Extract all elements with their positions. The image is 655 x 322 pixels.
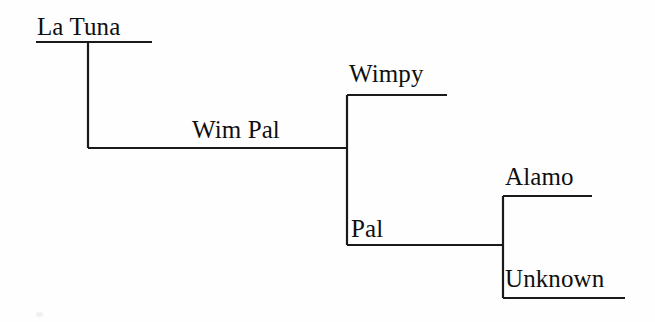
scan-artifact: [36, 312, 43, 317]
node-label-la-tuna: La Tuna: [37, 14, 120, 39]
node-label-wim-pal: Wim Pal: [192, 117, 280, 142]
node-label-wimpy: Wimpy: [349, 61, 424, 86]
node-label-unknown: Unknown: [505, 266, 604, 291]
node-label-alamo: Alamo: [505, 164, 574, 189]
node-label-pal: Pal: [351, 216, 383, 241]
diagram-canvas: La Tuna Wim Pal Wimpy Pal Alamo Unknown: [0, 0, 655, 322]
